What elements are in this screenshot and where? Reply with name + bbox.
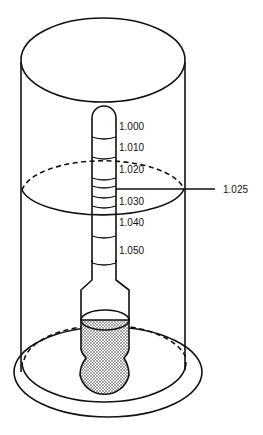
scale-label-1050: 1.050: [119, 245, 144, 256]
scale-label-1030: 1.030: [119, 196, 144, 207]
stem-graduations: [92, 137, 116, 265]
scale-label-1020: 1.020: [119, 164, 144, 175]
reading-label: 1.025: [223, 184, 248, 195]
cylinder-top-rim: [21, 18, 185, 102]
scale-label-1010: 1.010: [119, 142, 144, 153]
hydrometer-diagram: 1.000 1.010 1.020 1.030 1.040 1.050 1.02…: [0, 0, 263, 435]
hydrometer-weighted-bulb: [80, 320, 129, 394]
scale-label-1040: 1.040: [119, 217, 144, 228]
scale-label-1000: 1.000: [119, 121, 144, 132]
